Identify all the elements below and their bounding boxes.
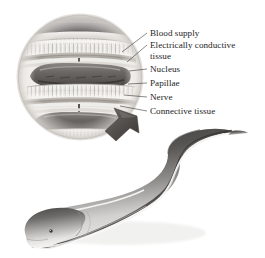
label-connective-tissue: Connective tissue — [150, 106, 215, 116]
label-electrically-conductive-tissue-line2: tissue — [150, 51, 171, 61]
eel-eye — [49, 229, 52, 232]
label-papillae: Papillae — [150, 78, 180, 88]
label-electrically-conductive-tissue-line1: Electrically conductive — [150, 40, 235, 50]
eel-electroplaque-figure: Blood supply Electrically conductive tis… — [0, 0, 265, 258]
label-nerve: Nerve — [150, 92, 172, 102]
eel-eye-glint — [50, 230, 51, 231]
label-blood-supply: Blood supply — [150, 28, 200, 38]
label-nucleus: Nucleus — [150, 64, 181, 74]
figure-container: Blood supply Electrically conductive tis… — [0, 0, 265, 258]
